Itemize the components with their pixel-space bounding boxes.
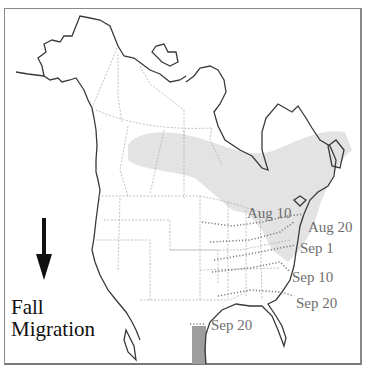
- legend-title-line2: Migration: [11, 318, 95, 340]
- wintering-range: [192, 326, 206, 364]
- legend-title-line1: Fall: [11, 296, 44, 318]
- label-sep-20-gulf: Sep 20: [211, 318, 252, 333]
- label-sep-20-east: Sep 20: [296, 296, 337, 311]
- label-aug-20: Aug 20: [308, 220, 353, 235]
- down-arrow-icon: [36, 218, 52, 280]
- label-sep-10: Sep 10: [292, 270, 333, 285]
- label-aug-10: Aug 10: [247, 206, 292, 221]
- label-sep-1: Sep 1: [300, 241, 334, 256]
- isochrone-sep-10: [212, 262, 290, 272]
